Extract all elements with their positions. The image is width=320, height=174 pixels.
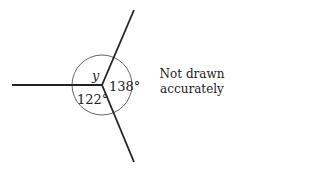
angle-y-label: y xyxy=(91,68,100,83)
not-drawn-accurately-note: Not drawn accurately xyxy=(152,67,232,97)
note-line-1: Not drawn xyxy=(152,67,232,82)
angle-122-label: 122° xyxy=(77,92,108,107)
angle-138-label: 138° xyxy=(109,79,140,94)
ray-top xyxy=(102,10,134,85)
note-line-2: accurately xyxy=(152,82,232,97)
